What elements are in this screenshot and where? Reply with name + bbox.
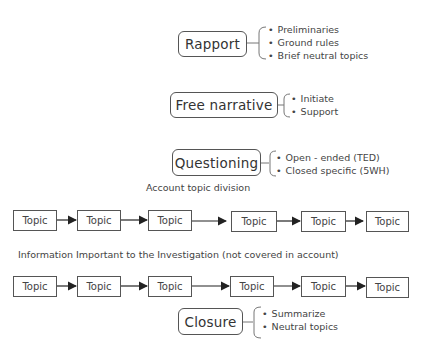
row-caption-information: Information Important to the Investigati… <box>18 249 339 260</box>
topic-label: Topic <box>157 215 182 226</box>
topic-box: Topic <box>13 276 57 297</box>
row-caption-account: Account topic division <box>146 182 250 193</box>
free-narrative-items: Initiate Support <box>291 92 338 118</box>
list-item: Summarize <box>262 307 338 320</box>
list-item: Closed specific (5WH) <box>276 164 389 177</box>
topic-box: Topic <box>148 276 192 297</box>
stage-questioning: Questioning <box>172 149 261 176</box>
topic-label: Topic <box>239 281 264 292</box>
stage-label: Rapport <box>185 36 240 52</box>
topic-box: Topic <box>366 211 409 232</box>
questioning-items: Open - ended (TED) Closed specific (5WH) <box>276 151 389 177</box>
stage-closure: Closure <box>178 308 243 335</box>
topic-box: Topic <box>148 210 192 231</box>
closure-items: Summarize Neutral topics <box>262 307 338 333</box>
topic-box: Topic <box>231 211 277 232</box>
list-item: Initiate <box>291 92 338 105</box>
list-item: Support <box>291 105 338 118</box>
list-item: Brief neutral topics <box>268 49 368 62</box>
list-item: Preliminaries <box>268 23 368 36</box>
topic-box: Topic <box>301 211 346 232</box>
topic-label: Topic <box>86 215 111 226</box>
stage-label: Questioning <box>175 155 258 171</box>
rapport-items: Preliminaries Ground rules Brief neutral… <box>268 23 368 62</box>
stage-label: Closure <box>185 314 237 330</box>
stage-rapport: Rapport <box>178 31 247 57</box>
topic-box: Topic <box>366 277 409 298</box>
topic-label: Topic <box>157 281 182 292</box>
stage-free-narrative: Free narrative <box>170 92 278 118</box>
topic-label: Topic <box>22 281 47 292</box>
topic-label: Topic <box>375 216 400 227</box>
topic-label: Topic <box>311 281 336 292</box>
topic-box: Topic <box>13 210 57 231</box>
stage-label: Free narrative <box>175 97 272 113</box>
topic-box: Topic <box>77 210 121 231</box>
list-item: Neutral topics <box>262 320 338 333</box>
topic-label: Topic <box>375 282 400 293</box>
list-item: Open - ended (TED) <box>276 151 389 164</box>
topic-label: Topic <box>241 216 266 227</box>
topic-label: Topic <box>22 215 47 226</box>
topic-box: Topic <box>77 276 121 297</box>
topic-label: Topic <box>311 216 336 227</box>
topic-label: Topic <box>86 281 111 292</box>
topic-box: Topic <box>301 276 346 297</box>
list-item: Ground rules <box>268 36 368 49</box>
topic-box: Topic <box>230 276 274 297</box>
